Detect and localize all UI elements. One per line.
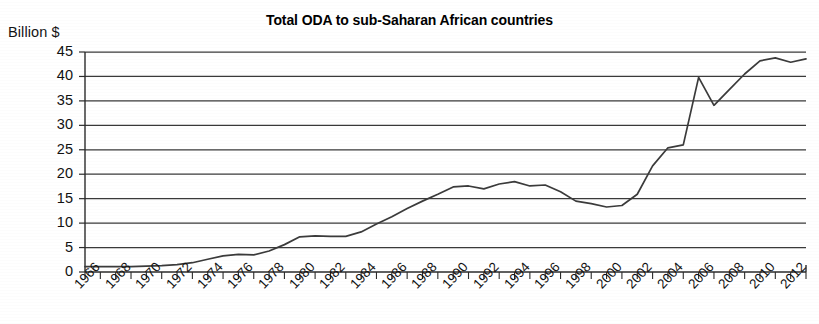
y-tick-label: 25 xyxy=(37,142,73,157)
y-tick-label: 15 xyxy=(37,191,73,206)
y-tick-label: 5 xyxy=(37,240,73,255)
y-tick-label: 40 xyxy=(37,68,73,83)
y-tick-label: 45 xyxy=(37,44,73,59)
y-tick-label: 20 xyxy=(37,166,73,181)
y-tick-label: 30 xyxy=(37,117,73,132)
y-tick-label: 35 xyxy=(37,93,73,108)
y-tick-label: 0 xyxy=(37,264,73,279)
y-tick-marks-group xyxy=(79,52,85,272)
data-series-line xyxy=(85,58,806,267)
y-tick-label: 10 xyxy=(37,215,73,230)
axes-group xyxy=(85,52,806,272)
chart-container: Total ODA to sub-Saharan African countri… xyxy=(0,0,819,324)
